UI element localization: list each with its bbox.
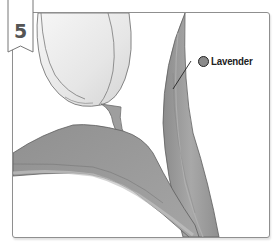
- illustration-frame: [12, 12, 270, 238]
- step-badge: 5: [7, 0, 34, 55]
- callout-lavender: Lavender: [198, 54, 258, 68]
- step-number: 5: [7, 22, 34, 41]
- callout-leader-line: [13, 13, 269, 237]
- callout-label: Lavender: [211, 55, 253, 67]
- color-swatch-lavender: [198, 56, 209, 67]
